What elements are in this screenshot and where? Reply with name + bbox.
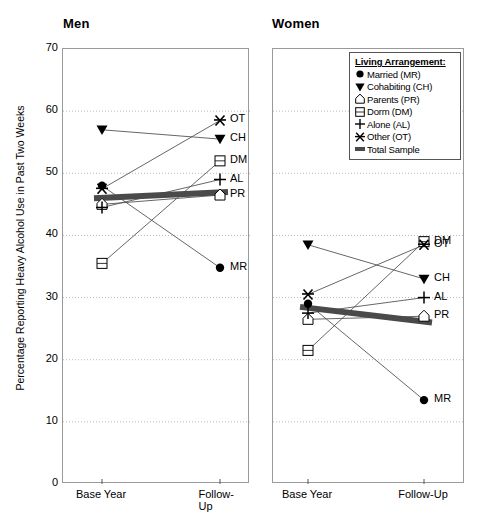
marker-DM-followup	[215, 156, 225, 166]
point-label-men-PR: PR	[230, 187, 245, 199]
filled-triangle-down-icon	[354, 81, 367, 93]
point-label-women-OT: OT	[434, 237, 449, 249]
chart-plot-men	[62, 48, 249, 483]
marker-MR-base	[304, 300, 312, 308]
panel-title-men: Men	[63, 16, 90, 31]
marker-DM-base	[303, 345, 313, 355]
x-tick-women-follow-up: Follow-Up	[398, 488, 448, 500]
star-icon	[354, 131, 367, 143]
men-series-canvas	[63, 49, 250, 484]
y-tick-0: 0	[28, 476, 58, 488]
legend-item-label: Total Sample	[367, 144, 420, 155]
y-tick-50: 50	[28, 165, 58, 177]
y-tick-10: 10	[28, 414, 58, 426]
legend-item-marriedmr: Married (MR)	[354, 68, 456, 81]
y-tick-60: 60	[28, 103, 58, 115]
y-axis-tick-labels: 706050403020100	[24, 48, 58, 483]
point-label-men-OT: OT	[230, 112, 245, 124]
series-line-OT	[308, 245, 424, 295]
panel-title-women: Women	[272, 16, 320, 31]
x-axis-tick-labels-women: Base YearFollow-Up	[0, 488, 484, 508]
marker-MR-followup	[420, 396, 428, 404]
house-icon	[354, 93, 367, 105]
legend: Living Arrangement: Married (MR)Cohabiti…	[349, 52, 461, 160]
series-line-TS	[300, 307, 432, 323]
series-line-DM	[308, 242, 424, 351]
open-square-icon	[354, 106, 367, 118]
legend-item-totalsample: Total Sample	[354, 143, 456, 156]
point-label-women-PR: PR	[434, 308, 449, 320]
legend-item-label: Cohabiting (CH)	[367, 81, 432, 92]
point-label-men-MR: MR	[230, 260, 247, 272]
series-line-TS	[94, 192, 228, 198]
thick-band-icon	[354, 143, 367, 155]
legend-item-label: Parents (PR)	[367, 94, 420, 105]
marker-AL-followup	[418, 292, 430, 304]
legend-item-aloneal: Alone (AL)	[354, 118, 456, 131]
legend-item-otherot: Other (OT)	[354, 131, 456, 144]
y-tick-20: 20	[28, 352, 58, 364]
legend-item-label: Other (OT)	[367, 131, 411, 142]
marker-CH-followup	[419, 275, 430, 285]
y-tick-40: 40	[28, 227, 58, 239]
point-label-men-CH: CH	[230, 131, 246, 143]
point-label-women-CH: CH	[434, 271, 450, 283]
legend-item-dormdm: Dorm (DM)	[354, 106, 456, 119]
series-line-DM	[102, 161, 220, 264]
marker-DM-base	[97, 258, 107, 268]
marker-CH-followup	[215, 135, 226, 145]
series-line-OT	[102, 120, 220, 188]
marker-PR-followup	[419, 310, 429, 321]
marker-OT-followup	[214, 115, 226, 125]
y-tick-70: 70	[28, 41, 58, 53]
legend-item-cohabitingch: Cohabiting (CH)	[354, 81, 456, 94]
point-label-women-MR: MR	[434, 392, 451, 404]
legend-items: Married (MR)Cohabiting (CH)Parents (PR)D…	[354, 68, 456, 156]
point-label-women-AL: AL	[434, 290, 447, 302]
legend-item-parentspr: Parents (PR)	[354, 93, 456, 106]
legend-item-label: Alone (AL)	[367, 119, 410, 130]
marker-AL-followup	[214, 174, 226, 186]
filled-circle-icon	[354, 68, 367, 80]
legend-item-label: Married (MR)	[367, 69, 421, 80]
marker-OT-base	[302, 289, 314, 299]
x-tick-women-base-year: Base Year	[282, 488, 332, 500]
marker-CH-base	[303, 240, 314, 250]
series-line-CH	[308, 245, 424, 279]
point-label-men-DM: DM	[230, 153, 247, 165]
legend-item-label: Dorm (DM)	[367, 106, 412, 117]
marker-MR-followup	[216, 264, 224, 272]
point-label-men-AL: AL	[230, 172, 243, 184]
legend-title: Living Arrangement:	[355, 56, 456, 67]
y-tick-30: 30	[28, 290, 58, 302]
plus-icon	[354, 118, 367, 130]
